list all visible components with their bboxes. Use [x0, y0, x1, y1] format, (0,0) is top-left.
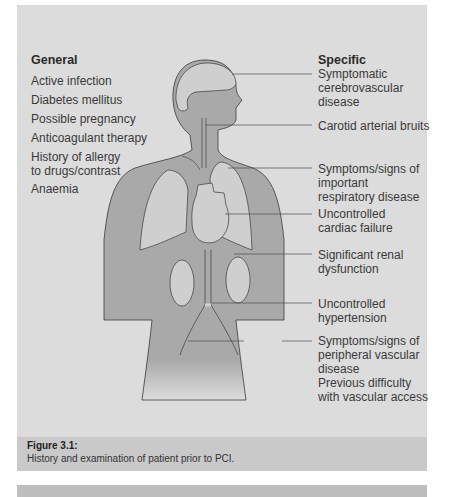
specific-item: Symptoms/signs of important respiratory …: [318, 162, 423, 204]
specific-heading: Specific: [318, 53, 366, 67]
specific-item: Significant renal dysfunction: [318, 248, 423, 276]
kidney-left-icon: [170, 260, 194, 306]
specific-item: Uncontrolled hypertension: [318, 297, 423, 325]
specific-item: Uncontrolled cardiac failure: [318, 207, 423, 235]
specific-item: Symptomatic cerebrovascular disease: [318, 67, 423, 109]
general-item: History of allergy to drugs/contrast: [31, 150, 131, 178]
next-section-strip: [17, 485, 427, 497]
general-item: Possible pregnancy: [31, 112, 171, 126]
general-item: Active infection: [31, 74, 171, 88]
specific-item: Previous difficulty with vascular access: [318, 376, 433, 404]
general-heading: General: [31, 53, 78, 67]
kidney-right-icon: [226, 257, 250, 303]
general-item: Anticoagulant therapy: [31, 131, 171, 145]
general-item: Diabetes mellitus: [31, 93, 171, 107]
figure-caption-title: Figure 3.1:: [27, 440, 78, 451]
specific-item: Symptoms/signs of peripheral vascular di…: [318, 334, 423, 376]
specific-item: Carotid arterial bruits: [318, 119, 438, 133]
figure-caption-text: History and examination of patient prior…: [27, 453, 234, 464]
general-item: Anaemia: [31, 182, 171, 196]
